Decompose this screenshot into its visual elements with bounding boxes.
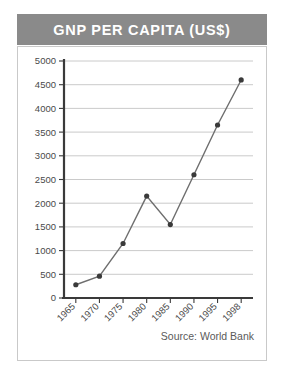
y-tick-label: 500 bbox=[40, 269, 56, 280]
y-tick-label: 3500 bbox=[35, 127, 56, 138]
y-tick-label: 1500 bbox=[35, 221, 56, 232]
data-point-marker bbox=[168, 222, 173, 227]
y-tick-label: 3000 bbox=[35, 150, 56, 161]
data-point-marker bbox=[239, 77, 244, 82]
y-tick-label: 2000 bbox=[35, 198, 56, 209]
y-tick-label: 4000 bbox=[35, 103, 56, 114]
y-tick-label: 1000 bbox=[35, 245, 56, 256]
line-chart-canvas: 0500100015002000250030003500400045005000… bbox=[18, 47, 266, 360]
data-point-marker bbox=[97, 274, 102, 279]
x-tick-label: 1995 bbox=[196, 301, 219, 324]
y-tick-label: 2500 bbox=[35, 174, 56, 185]
data-point-marker bbox=[73, 282, 78, 287]
x-tick-label: 1985 bbox=[149, 301, 172, 324]
data-point-marker bbox=[215, 122, 220, 127]
y-tick-label: 4500 bbox=[35, 79, 56, 90]
data-point-marker bbox=[144, 193, 149, 198]
data-point-marker bbox=[120, 241, 125, 246]
series-line bbox=[76, 80, 241, 285]
x-tick-label: 1975 bbox=[102, 301, 125, 324]
source-annotation: Source: World Bank bbox=[161, 330, 254, 342]
x-tick-label: 1970 bbox=[78, 301, 101, 324]
chart-title-banner: GNP PER CAPITA (US$) bbox=[17, 14, 267, 45]
x-tick-label: 1980 bbox=[125, 301, 148, 324]
x-tick-label: 1990 bbox=[173, 301, 196, 324]
chart-figure: GNP PER CAPITA (US$) 0500100015002000250… bbox=[0, 0, 284, 375]
data-point-marker bbox=[191, 172, 196, 177]
x-tick-label: 1998 bbox=[220, 301, 243, 324]
chart-plot-card: 0500100015002000250030003500400045005000… bbox=[17, 46, 267, 361]
y-tick-label: 5000 bbox=[35, 55, 56, 66]
y-tick-label: 0 bbox=[51, 292, 56, 303]
page-title: GNP PER CAPITA (US$) bbox=[53, 22, 230, 38]
x-tick-label: 1965 bbox=[54, 301, 77, 324]
